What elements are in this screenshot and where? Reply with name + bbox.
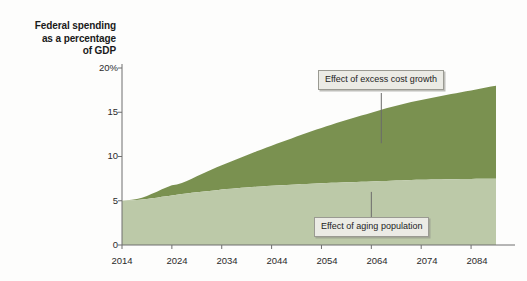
x-tick-label-2084: 2084 [457,255,497,266]
chart-plot [0,0,527,281]
x-tick-label-2024: 2024 [157,255,197,266]
annotation-aging-population: Effect of aging population [314,217,429,237]
figure-root: Federal spending as a percentage of GDP … [0,0,527,281]
y-tick-label-10: 10 [84,150,118,161]
y-tick-label-0: 0 [84,239,118,250]
y-tick-label-5: 5 [84,195,118,206]
x-tick-label-2044: 2044 [257,255,297,266]
annotation-excess-cost-growth: Effect of excess cost growth [318,70,444,90]
area-series-group [122,86,496,245]
x-tick-label-2074: 2074 [407,255,447,266]
x-tick-label-2014: 2014 [102,255,142,266]
y-tick-label-20: 20% [84,62,118,73]
x-tick-label-2034: 2034 [207,255,247,266]
x-tick-label-2054: 2054 [307,255,347,266]
x-tick-label-2064: 2064 [357,255,397,266]
y-tick-label-15: 15 [84,106,118,117]
